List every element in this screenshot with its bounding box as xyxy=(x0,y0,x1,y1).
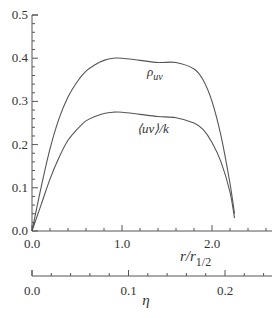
rho-uv-label: ρuv xyxy=(146,64,163,82)
x-tick-label: 2.0 xyxy=(204,236,220,251)
y-tick-label: 0.5 xyxy=(12,7,28,22)
eta-axis-title: η xyxy=(142,292,149,308)
rho-uv-label-sub: uv xyxy=(153,71,163,82)
eta-tick-label: 0.1 xyxy=(120,283,136,298)
axes xyxy=(32,15,272,276)
x-tick-label: 0.0 xyxy=(24,236,40,251)
eta-tick-label: 0.2 xyxy=(217,283,233,298)
line-chart: 0.00.10.20.30.40.50.01.02.0r/r1/20.00.10… xyxy=(0,0,280,318)
rho-uv-curve xyxy=(32,58,235,231)
y-tick-label: 0.4 xyxy=(12,50,29,65)
x-axis-title: r/r1/2 xyxy=(180,248,211,269)
y-tick-label: 0.2 xyxy=(12,137,28,152)
y-tick-label: 0.1 xyxy=(12,180,28,195)
curves xyxy=(32,58,235,231)
x-axis-title-sub: 1/2 xyxy=(196,255,211,269)
y-tick-label: 0.3 xyxy=(12,93,28,108)
eta-tick-label: 0.0 xyxy=(24,283,40,298)
chart-container: 0.00.10.20.30.40.50.01.02.0r/r1/20.00.10… xyxy=(0,0,280,318)
labels: 0.00.10.20.30.40.50.01.02.0r/r1/20.00.10… xyxy=(12,7,233,308)
uv-over-k-curve xyxy=(32,112,235,231)
uv-over-k-label: ⟨uv⟩/k xyxy=(137,121,169,136)
x-tick-label: 1.0 xyxy=(114,236,130,251)
